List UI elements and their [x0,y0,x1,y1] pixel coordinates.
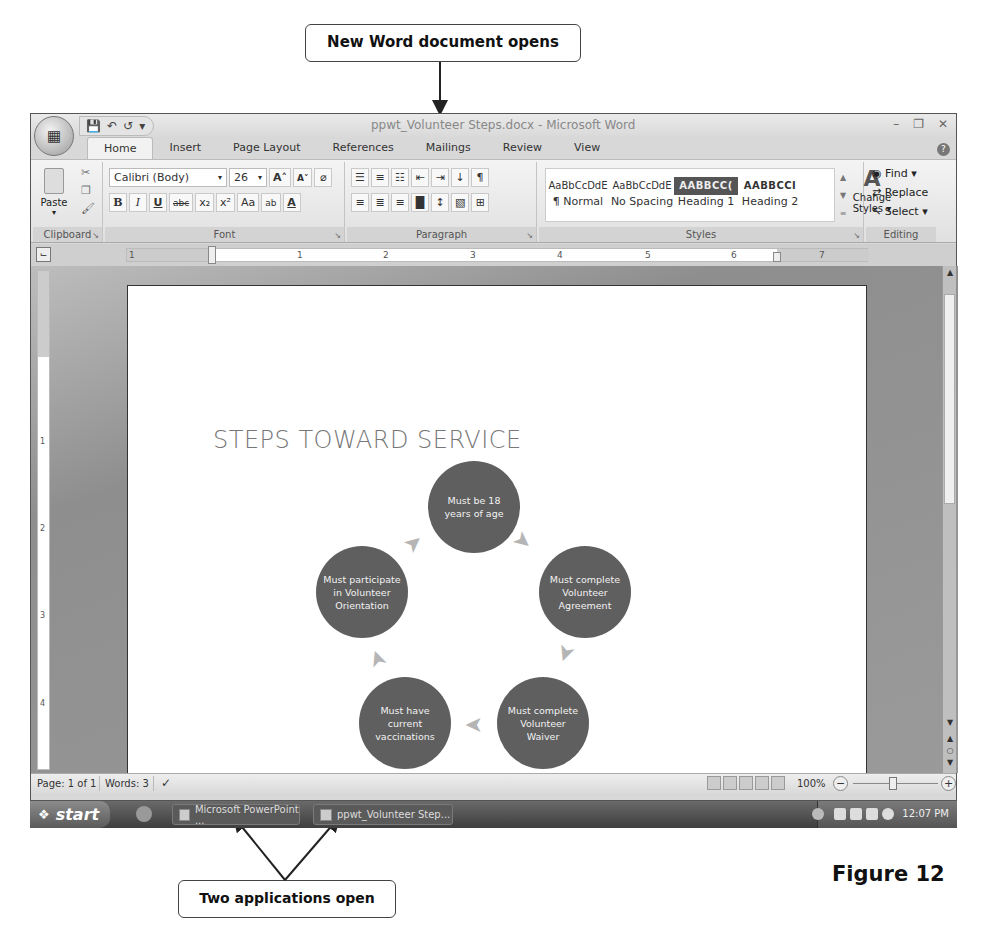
find-button[interactable]: ◉ Find ▾ [872,167,917,180]
tab-view[interactable]: View [558,137,616,159]
next-page-icon[interactable]: ▼ [945,758,955,767]
select-button[interactable]: ↖ Select ▾ [872,205,928,218]
paragraph-launcher-icon[interactable]: ↘ [526,231,533,240]
help-icon[interactable]: ? [937,143,950,156]
decrease-indent-button[interactable]: ⇤ [411,168,429,187]
tab-selector-icon[interactable]: ⌙ [36,247,51,262]
outline-icon[interactable] [755,776,769,790]
clear-formatting-button[interactable]: ⌀ [314,168,332,187]
subscript-button[interactable]: x₂ [195,193,214,212]
font-launcher-icon[interactable]: ↘ [334,231,341,240]
grow-font-button[interactable]: A˄ [269,168,291,187]
zoom-in-icon[interactable]: + [941,776,956,791]
borders-button[interactable]: ⊞ [471,193,489,212]
zoom-level[interactable]: 100% [797,778,826,789]
font-color-button[interactable]: A [283,193,301,212]
scroll-down-icon[interactable]: ▼ [945,718,955,727]
bullets-button[interactable]: ☰ [351,168,369,187]
paste-button[interactable]: Paste▾ [37,166,71,224]
styles-launcher-icon[interactable]: ↘ [853,231,860,240]
sort-button[interactable]: ↓ [451,168,469,187]
tab-page-layout[interactable]: Page Layout [217,137,317,159]
italic-button[interactable]: I [129,193,147,212]
cycle-step-4[interactable]: Must have current vaccinations [359,677,451,769]
tab-mailings[interactable]: Mailings [410,137,487,159]
restore-icon[interactable]: ❐ [913,117,924,131]
font-name-dropdown[interactable]: Calibri (Body)▾ [109,168,227,187]
numbering-button[interactable]: ≡ [371,168,389,187]
clock[interactable]: 12:07 PM [902,808,949,819]
scroll-down-icon[interactable]: ▼ [840,191,846,200]
proofing-icon[interactable]: ✓ [161,776,171,790]
cycle-step-1[interactable]: Must be 18 years of age [428,461,520,553]
show-hide-button[interactable]: ¶ [471,168,489,187]
minimize-icon[interactable]: – [893,117,899,131]
office-button[interactable]: ▦ [34,116,74,156]
scroll-up-icon[interactable]: ▲ [945,268,955,277]
close-icon[interactable]: ✕ [938,117,948,131]
document-title[interactable]: STEPS TOWARD SERVICE [213,426,522,454]
justify-button[interactable]: █ [411,193,429,212]
change-case-button[interactable]: Aa [237,193,259,212]
tab-references[interactable]: References [317,137,410,159]
draft-icon[interactable] [771,776,785,790]
quick-launch-icon[interactable] [136,806,152,822]
line-spacing-button[interactable]: ↕ [431,193,449,212]
word-count[interactable]: Words: 3 [105,778,149,789]
increase-indent-button[interactable]: ⇥ [431,168,449,187]
page-count[interactable]: Page: 1 of 1 [37,778,96,789]
scrollbar-thumb[interactable] [944,294,955,504]
previous-page-icon[interactable]: ▲ [945,734,955,743]
strikethrough-button[interactable]: abc [169,193,193,212]
align-right-button[interactable]: ≡ [391,193,409,212]
display-icon[interactable] [866,808,878,820]
clipboard-launcher-icon[interactable]: ↘ [92,231,99,240]
tab-review[interactable]: Review [487,137,558,159]
start-button[interactable]: ❖ start [30,801,110,828]
show-hidden-icons-icon[interactable] [812,808,824,820]
multilevel-list-button[interactable]: ☷ [391,168,409,187]
shrink-font-button[interactable]: A˅ [293,168,312,187]
print-layout-icon[interactable] [707,776,721,790]
superscript-button[interactable]: x² [216,193,235,212]
font-size-dropdown[interactable]: 26▾ [229,168,267,187]
web-layout-icon[interactable] [739,776,753,790]
redo-icon[interactable]: ↺ [123,119,133,133]
scroll-up-icon[interactable]: ▲ [840,173,846,182]
tab-insert[interactable]: Insert [153,137,217,159]
align-left-button[interactable]: ≡ [351,193,369,212]
replace-button[interactable]: ⇄ Replace [872,186,928,199]
zoom-out-icon[interactable]: − [833,776,848,791]
copy-icon[interactable]: ❐ [81,184,91,197]
undo-icon[interactable]: ↶ [107,119,117,133]
save-icon[interactable]: 💾 [86,119,101,133]
horizontal-ruler[interactable]: 1 1 2 3 4 5 6 7 [126,248,868,262]
network-icon[interactable] [850,808,862,820]
style-heading-2[interactable]: AABBCCI Heading 2 [738,169,802,221]
underline-button[interactable]: U [149,193,167,212]
customize-icon[interactable]: ▾ [139,119,145,133]
more-styles-icon[interactable]: ≡ [840,209,847,218]
style-no-spacing[interactable]: AaBbCcDdE No Spacing [610,169,674,221]
full-screen-reading-icon[interactable] [723,776,737,790]
style-normal[interactable]: AaBbCcDdE ¶ Normal [546,169,610,221]
select-browse-object-icon[interactable]: ○ [945,746,955,755]
left-indent-marker[interactable] [208,246,216,264]
bold-button[interactable]: B [109,193,127,212]
right-indent-marker[interactable] [773,252,781,262]
vertical-scrollbar[interactable]: ▲ ▼ ▲ ○ ▼ [942,266,956,773]
security-shield-icon[interactable] [882,808,894,820]
taskbar-word[interactable]: ppwt_Volunteer Step... [313,804,453,825]
highlight-button[interactable]: ab [261,193,280,212]
format-painter-icon[interactable]: 🖌 [81,202,95,215]
shading-button[interactable]: ▧ [451,193,469,212]
document-page[interactable]: STEPS TOWARD SERVICE Must be 18 years of… [127,285,867,775]
tab-home[interactable]: Home [87,137,153,159]
zoom-slider-thumb[interactable] [889,777,897,790]
cycle-step-5[interactable]: Must participate in Volunteer Orientatio… [316,546,408,638]
vertical-ruler[interactable]: 1 2 3 4 [37,270,50,770]
tray-app-icon[interactable] [834,808,846,820]
taskbar-powerpoint[interactable]: Microsoft PowerPoint ... [172,804,300,825]
style-heading-1[interactable]: AABBCC( Heading 1 [674,169,738,221]
center-button[interactable]: ≣ [371,193,389,212]
